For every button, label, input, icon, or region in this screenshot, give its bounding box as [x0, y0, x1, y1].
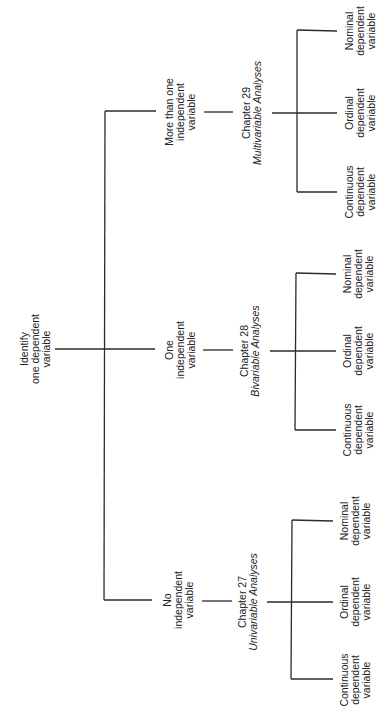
root-node: Identify one dependent variable — [19, 314, 52, 384]
label-line: variable — [184, 571, 195, 629]
label-line: variable — [366, 6, 377, 56]
chapter-28-node: Chapter 28 Bivariable Analyses — [239, 305, 261, 396]
outcome-continuous: Continuous dependent variable — [342, 403, 375, 456]
label-line: variable — [366, 88, 377, 138]
decision-tree-diagram: Identify one dependent variable More tha… — [0, 0, 392, 719]
outcome-ordinal: Ordinal dependent variable — [344, 88, 377, 138]
outcome-nominal: Nominal dependent variable — [339, 496, 372, 546]
outcome-ordinal: Ordinal dependent variable — [342, 326, 375, 376]
analysis-label: Univariable Analyses — [248, 553, 259, 651]
label-line: variable — [361, 577, 372, 627]
label-line: variable — [186, 78, 197, 146]
label-line: variable — [366, 165, 377, 218]
root-line: variable — [41, 314, 52, 384]
condition-no-independent: No independent variable — [162, 571, 195, 629]
outcome-nominal: Nominal dependent variable — [344, 6, 377, 56]
label-line: variable — [361, 653, 372, 706]
chapter-27-node: Chapter 27 Univariable Analyses — [237, 553, 259, 651]
outcome-nominal: Nominal dependent variable — [342, 249, 375, 299]
condition-one-independent: One independent variable — [164, 321, 197, 379]
outcome-continuous: Continuous dependent variable — [339, 653, 372, 706]
label-line: variable — [364, 403, 375, 456]
label-line: variable — [361, 496, 372, 546]
outcome-continuous: Continuous dependent variable — [344, 165, 377, 218]
label-line: variable — [364, 249, 375, 299]
chapter-29-node: Chapter 29 Multivariable Analyses — [241, 61, 263, 165]
condition-multiple-independent: More than one independent variable — [164, 78, 197, 146]
analysis-label: Multivariable Analyses — [252, 61, 263, 165]
label-line: variable — [364, 326, 375, 376]
label-line: variable — [186, 321, 197, 379]
outcome-ordinal: Ordinal dependent variable — [339, 577, 372, 627]
analysis-label: Bivariable Analyses — [250, 305, 261, 396]
